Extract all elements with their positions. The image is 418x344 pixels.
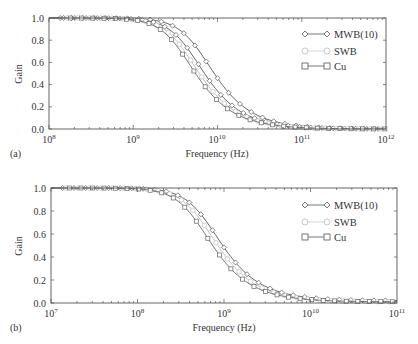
x-tick-label: 1011	[294, 133, 311, 145]
y-tick-label: 0.2	[34, 275, 47, 286]
legend-label-swb: SWB	[334, 217, 357, 228]
x-axis-title: Frequency (Hz)	[185, 148, 248, 160]
y-tick-label: 0.6	[34, 229, 47, 240]
x-tick-label: 108	[42, 133, 56, 145]
legend-a: MWB(10) SWB Cu	[302, 29, 378, 72]
circle-marker-icon	[302, 48, 308, 54]
x-tick-label: 1011	[389, 307, 406, 319]
y-axis-title: Gain	[13, 64, 24, 83]
legend-label-mwb: MWB(10)	[334, 29, 378, 41]
square-marker-icon	[324, 63, 330, 69]
x-tick-labels-a: 108 109 1010 1011 1012	[42, 133, 395, 145]
diamond-marker-icon	[324, 202, 330, 208]
circle-marker-icon	[324, 48, 330, 54]
legend-label-swb: SWB	[334, 46, 357, 57]
square-marker-icon	[302, 63, 308, 69]
y-tick-label: 0.0	[34, 298, 47, 309]
diamond-marker-icon	[302, 202, 308, 208]
y-tick-label: 0.4	[34, 252, 47, 263]
x-tick-label: 1012	[378, 133, 396, 145]
y-tick-label: 0.4	[32, 79, 45, 90]
x-tick-label: 1010	[302, 307, 320, 319]
y-tick-label: 1.0	[32, 13, 45, 24]
legend-label-mwb: MWB(10)	[334, 200, 378, 212]
circle-marker-icon	[302, 219, 308, 225]
x-axis-title: Frequency (Hz)	[192, 322, 255, 334]
x-tick-label: 109	[217, 307, 231, 319]
figure: 0.0 0.2 0.4 0.6 0.8 1.0 108 109 1010 101…	[0, 0, 418, 344]
legend-b: MWB(10) SWB Cu	[302, 200, 378, 243]
legend-label-cu: Cu	[334, 232, 347, 243]
panel-label-a: (a)	[10, 148, 21, 160]
circle-marker-icon	[324, 219, 330, 225]
y-tick-label: 0.8	[32, 35, 45, 46]
x-tick-labels-b: 107 108 109 1010 1011	[44, 307, 406, 319]
y-tick-label: 0.8	[34, 206, 47, 217]
diamond-marker-icon	[324, 31, 330, 37]
y-axis-title: Gain	[13, 236, 24, 255]
x-tick-label: 109	[126, 133, 140, 145]
chart-panel-a: 0.0 0.2 0.4 0.6 0.8 1.0 108 109 1010 101…	[10, 13, 395, 161]
x-tick-label: 107	[44, 307, 58, 319]
x-tick-label: 108	[131, 307, 145, 319]
diamond-marker-icon	[302, 31, 308, 37]
y-tick-label: 0.6	[32, 57, 45, 68]
x-tick-label: 1010	[209, 133, 227, 145]
square-marker-icon	[302, 234, 308, 240]
legend-label-cu: Cu	[334, 61, 347, 72]
y-tick-label: 1.0	[34, 183, 47, 194]
y-tick-label: 0.0	[32, 124, 45, 135]
y-tick-label: 0.2	[32, 101, 45, 112]
panel-label-b: (b)	[10, 322, 22, 334]
square-marker-icon	[324, 234, 330, 240]
chart-panel-b: 0.0 0.2 0.4 0.6 0.8 1.0 107 108 109 1010…	[10, 183, 406, 335]
